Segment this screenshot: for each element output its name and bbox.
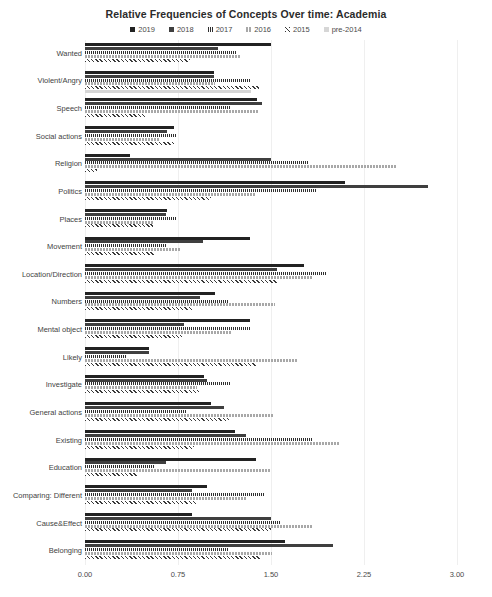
category-label: Speech — [0, 105, 82, 113]
category-label: Mental object — [0, 326, 82, 334]
bar-2018 — [85, 489, 192, 492]
bar-2015 — [85, 390, 199, 393]
bar-group: Social actions — [85, 123, 457, 151]
category-label: Location/Direction — [0, 271, 82, 279]
bar-2018 — [85, 240, 203, 243]
bar-2015 — [85, 59, 190, 62]
chart-legend: 20192018201720162015pre-2014 — [0, 26, 492, 34]
bar-2019 — [85, 319, 250, 322]
bar-2019 — [85, 98, 257, 101]
bar-2016 — [85, 110, 259, 113]
bar-2015 — [85, 501, 197, 504]
bar-2016 — [85, 442, 340, 445]
bar-2019 — [85, 126, 174, 129]
bar-2019 — [85, 237, 250, 240]
legend-item-2016[interactable]: 2016 — [246, 26, 271, 34]
bar-2018 — [85, 434, 246, 437]
bar-2017 — [85, 548, 229, 551]
bar-2019 — [85, 181, 345, 184]
bar-2019 — [85, 513, 192, 516]
bar-2015 — [85, 86, 259, 89]
x-axis: 0.000.751.502.253.00 — [85, 570, 457, 582]
bar-group: Comparing: Different — [85, 482, 457, 510]
bar-group: Religion — [85, 151, 457, 179]
legend-swatch-icon — [324, 27, 329, 32]
bar-2018 — [85, 296, 200, 299]
bar-2016 — [85, 248, 180, 251]
legend-label: 2015 — [293, 26, 310, 34]
category-label: Existing — [0, 437, 82, 445]
bar-group: Speech — [85, 95, 457, 123]
bar-2016 — [85, 221, 153, 224]
legend-label: 2017 — [216, 26, 233, 34]
bar-2018 — [85, 158, 271, 161]
chart-container: Relative Frequencies of Concepts Over ti… — [0, 0, 492, 597]
bar-2016 — [85, 193, 256, 196]
bar-group: Likely — [85, 344, 457, 372]
legend-item-2015[interactable]: 2015 — [285, 26, 310, 34]
bar-2017 — [85, 355, 126, 358]
bar-group: Location/Direction — [85, 261, 457, 289]
bar-2019 — [85, 292, 215, 295]
bar-2018 — [85, 406, 224, 409]
bar-2018 — [85, 130, 167, 133]
gridline — [457, 40, 458, 565]
bar-2017 — [85, 217, 177, 220]
x-tick-label: 0.75 — [171, 570, 186, 579]
category-label: Education — [0, 464, 82, 472]
legend-item-pre-2014[interactable]: pre-2014 — [324, 26, 362, 34]
legend-item-2018[interactable]: 2018 — [169, 26, 194, 34]
bar-2015 — [85, 473, 137, 476]
category-label: Belonging — [0, 547, 82, 555]
bar-2019 — [85, 485, 207, 488]
bar-group: Wanted — [85, 40, 457, 68]
bar-2018 — [85, 75, 214, 78]
legend-item-2019[interactable]: 2019 — [130, 26, 155, 34]
bar-2016 — [85, 303, 275, 306]
bar-2016 — [85, 165, 397, 168]
bar-2015 — [85, 446, 194, 449]
bar-2016 — [85, 276, 312, 279]
bar-2015 — [85, 197, 211, 200]
legend-label: 2018 — [177, 26, 194, 34]
bar-2015 — [85, 252, 154, 255]
bar-2019 — [85, 154, 130, 157]
legend-item-2017[interactable]: 2017 — [208, 26, 233, 34]
bar-group: Existing — [85, 427, 457, 455]
bar-2016 — [85, 138, 159, 141]
bar-group: Mental object — [85, 316, 457, 344]
bar-2017 — [85, 438, 312, 441]
bar-2017 — [85, 244, 167, 247]
category-label: General actions — [0, 409, 82, 417]
category-label: Cause&Effect — [0, 520, 82, 528]
bar-2017 — [85, 382, 231, 385]
category-label: Likely — [0, 354, 82, 362]
category-label: Violent/Angry — [0, 77, 82, 85]
x-tick-label: 3.00 — [450, 570, 465, 579]
bar-2017 — [85, 410, 187, 413]
bar-2017 — [85, 493, 264, 496]
legend-swatch-icon — [246, 27, 251, 32]
bar-group: Education — [85, 454, 457, 482]
bar-group: Violent/Angry — [85, 68, 457, 96]
bar-2017 — [85, 51, 236, 54]
bar-2018 — [85, 461, 166, 464]
bar-2017 — [85, 521, 281, 524]
bar-2018 — [85, 379, 207, 382]
bar-2017 — [85, 327, 251, 330]
bar-2019 — [85, 458, 256, 461]
bar-group: Politics — [85, 178, 457, 206]
bar-2016 — [85, 386, 197, 389]
category-label: Wanted — [0, 50, 82, 58]
x-tick-label: 2.25 — [357, 570, 372, 579]
category-label: Investigate — [0, 381, 82, 389]
bar-2016 — [85, 414, 273, 417]
bar-2017 — [85, 189, 316, 192]
bar-group: Numbers — [85, 289, 457, 317]
bar-2017 — [85, 106, 231, 109]
bar-2017 — [85, 161, 308, 164]
bar-pre-2014 — [85, 90, 251, 93]
category-label: Politics — [0, 188, 82, 196]
legend-swatch-icon — [130, 27, 135, 32]
category-label: Numbers — [0, 298, 82, 306]
